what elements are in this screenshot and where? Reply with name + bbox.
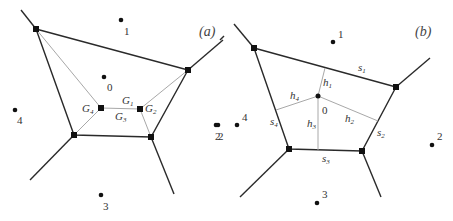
site-label-4-a: 4 [17, 114, 23, 126]
site-3-a [99, 193, 104, 198]
site-3-b [315, 201, 320, 206]
construction-line [101, 108, 140, 109]
side-label-s1: s1 [358, 61, 366, 75]
centroid-label-g2: G2 [145, 102, 157, 116]
site-label-1-b: 1 [338, 28, 344, 40]
vertex-marker [393, 84, 399, 90]
site-1-a [119, 18, 124, 23]
site-4-a [13, 108, 18, 113]
ray-b-bottom-right [362, 151, 381, 197]
site-label-0-b: 0 [322, 104, 328, 116]
height-label-h2: h2 [345, 112, 355, 126]
side-label-s2: s2 [377, 126, 385, 140]
centroid-marker-g4 [98, 105, 104, 111]
site-2-b-copy [216, 123, 221, 128]
height-label-h1: h1 [323, 76, 332, 90]
ray-b-top-right [396, 58, 430, 87]
centroid-label-g4: G4 [82, 102, 94, 116]
height-label-h4: h4 [290, 89, 300, 103]
site-0-a [102, 75, 107, 80]
vertex-marker [251, 45, 257, 51]
site-1-b [331, 40, 336, 45]
ray-b-bottom-left [240, 149, 289, 197]
site-label-0-a: 0 [107, 81, 113, 93]
side-label-s4: s4 [270, 115, 278, 129]
voronoi-figure: 1 0 4 2 3 G4 G1 G2 G3 (a) [0, 0, 453, 221]
construction-line [36, 29, 101, 108]
vertex-marker [148, 134, 154, 140]
voronoi-cell-0-b [254, 48, 396, 151]
ray-a-bottom-left [30, 135, 74, 180]
site-label-3-a: 3 [103, 200, 109, 212]
centroid-label-g1: G1 [122, 94, 133, 108]
ray-a-bottom-right [151, 137, 174, 194]
vertex-marker [359, 148, 365, 154]
vertex-marker [286, 146, 292, 152]
side-label-s3: s3 [322, 152, 330, 166]
site-label-2-b: 2 [437, 130, 443, 142]
ray-fragment [220, 36, 224, 40]
centroid-label-g3: G3 [115, 110, 127, 124]
site-2-b [430, 143, 435, 148]
panel-label-b: (b) [415, 24, 432, 40]
site-0-b [316, 94, 321, 99]
vertex-marker [33, 26, 39, 32]
site-label-4-b: 4 [242, 111, 248, 123]
centroid-marker-g2 [137, 106, 143, 112]
site-label-2b-b: 2 [215, 130, 221, 142]
vertex-marker [71, 132, 77, 138]
site-label-3-b: 3 [322, 188, 328, 200]
height-label-h3: h3 [307, 117, 317, 131]
ray-b-top-left [234, 24, 254, 48]
panel-label-a: (a) [199, 24, 216, 40]
site-4-b [235, 123, 240, 128]
panel-a: 1 0 4 2 3 G4 G1 G2 G3 (a) [13, 10, 224, 212]
ray-a-top-right [188, 40, 223, 70]
site-label-1-a: 1 [124, 25, 130, 37]
panel-b: 0 1 2 2 3 4 h1 h2 h3 h4 s1 s2 s3 s4 (b) [215, 24, 443, 205]
vertex-marker [185, 67, 191, 73]
